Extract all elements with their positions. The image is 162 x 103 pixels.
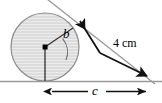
measure-arrow-lower <box>100 53 147 76</box>
geometry-figure: b 4 cm c <box>0 0 162 103</box>
length-label-c: c <box>92 84 98 97</box>
figure-canvas <box>0 0 162 103</box>
angle-label-b: b <box>63 27 70 40</box>
circle-center-dot <box>43 45 48 50</box>
length-label-4cm: 4 cm <box>113 37 137 49</box>
measure-arrow-upper <box>80 21 100 53</box>
